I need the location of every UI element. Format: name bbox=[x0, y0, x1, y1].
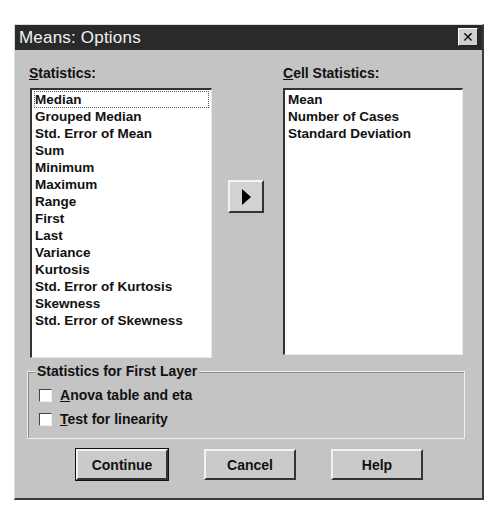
list-item[interactable]: Minimum bbox=[34, 159, 209, 176]
cell-statistics-listbox[interactable]: Mean Number of Cases Standard Deviation bbox=[283, 88, 463, 355]
first-layer-legend: Statistics for First Layer bbox=[35, 363, 199, 379]
cell-statistics-label-mnemonic: C bbox=[283, 65, 293, 81]
statistics-label-mnemonic: S bbox=[29, 65, 38, 81]
cell-statistics-label: Cell Statistics: bbox=[283, 65, 380, 81]
list-item[interactable]: Last bbox=[34, 227, 209, 244]
linearity-label[interactable]: Test for linearity bbox=[60, 411, 168, 427]
statistics-label: Statistics: bbox=[29, 65, 96, 81]
close-button[interactable]: ✕ bbox=[458, 28, 478, 46]
statistics-label-text: tatistics: bbox=[38, 65, 96, 81]
list-item[interactable]: Grouped Median bbox=[34, 108, 209, 125]
list-item[interactable]: Sum bbox=[34, 142, 209, 159]
anova-checkbox[interactable] bbox=[39, 389, 52, 402]
list-item[interactable]: Std. Error of Kurtosis bbox=[34, 278, 209, 295]
move-right-button[interactable] bbox=[228, 180, 264, 213]
first-layer-groupbox bbox=[27, 371, 465, 439]
list-item[interactable]: Standard Deviation bbox=[287, 125, 460, 142]
continue-button[interactable]: Continue bbox=[76, 449, 168, 480]
anova-label-text: nova table and eta bbox=[70, 387, 192, 403]
statistics-listbox[interactable]: Median Grouped Median Std. Error of Mean… bbox=[30, 88, 212, 358]
anova-label[interactable]: Anova table and eta bbox=[60, 387, 192, 403]
linearity-option[interactable]: Test for linearity bbox=[39, 411, 168, 427]
list-item[interactable]: Kurtosis bbox=[34, 261, 209, 278]
linearity-mnemonic: T bbox=[60, 411, 68, 427]
cell-statistics-label-text: ell Statistics: bbox=[293, 65, 379, 81]
title-bar[interactable]: Means: Options ✕ bbox=[15, 25, 482, 50]
right-arrow-icon bbox=[242, 189, 251, 205]
list-item[interactable]: Skewness bbox=[34, 295, 209, 312]
list-item[interactable]: First bbox=[34, 210, 209, 227]
list-item[interactable]: Variance bbox=[34, 244, 209, 261]
list-item[interactable]: Number of Cases bbox=[287, 108, 460, 125]
list-item[interactable]: Maximum bbox=[34, 176, 209, 193]
anova-option[interactable]: Anova table and eta bbox=[39, 387, 192, 403]
list-item[interactable]: Mean bbox=[287, 91, 460, 108]
list-item[interactable]: Std. Error of Mean bbox=[34, 125, 209, 142]
dialog-title: Means: Options bbox=[19, 28, 141, 48]
help-button[interactable]: Help bbox=[331, 449, 423, 480]
close-x-icon: ✕ bbox=[462, 30, 474, 44]
linearity-label-text: est for linearity bbox=[68, 411, 168, 427]
anova-mnemonic: A bbox=[60, 387, 70, 403]
list-item[interactable]: Range bbox=[34, 193, 209, 210]
list-item[interactable]: Std. Error of Skewness bbox=[34, 312, 209, 329]
list-item[interactable]: Median bbox=[34, 91, 209, 108]
means-options-dialog: Means: Options ✕ Statistics: Median Grou… bbox=[14, 24, 484, 500]
linearity-checkbox[interactable] bbox=[39, 413, 52, 426]
cancel-button[interactable]: Cancel bbox=[204, 449, 296, 480]
